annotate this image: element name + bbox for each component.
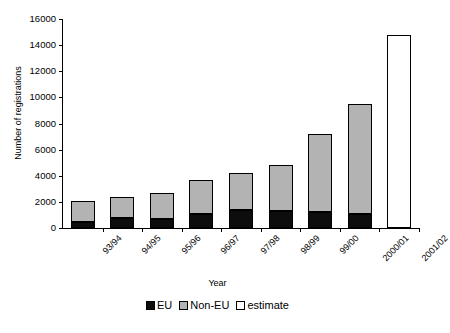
y-axis-tick-mark: [59, 202, 63, 203]
bar-segment-eu: [150, 219, 174, 228]
bar-group: [229, 19, 253, 228]
legend-item: Non-EU: [179, 300, 229, 311]
y-axis-tick-label: 12000: [10, 66, 56, 76]
y-axis-tick-label: 16000: [10, 14, 56, 24]
bar-segment-eu: [348, 214, 372, 228]
x-axis-tick-label: 94/95: [140, 233, 163, 256]
legend-label: estimate: [247, 300, 289, 311]
bar-segment-eu: [269, 211, 293, 228]
bars-layer: [63, 19, 419, 228]
y-axis-tick-label: 0: [10, 223, 56, 233]
bar-group: [269, 19, 293, 228]
bar-group: [387, 19, 411, 228]
x-axis-tick-label: 99/00: [338, 233, 361, 256]
bar-segment-non-eu: [189, 180, 213, 215]
plot-area: [62, 19, 419, 229]
bar-segment-non-eu: [110, 197, 134, 218]
x-axis-tick-label: 96/97: [219, 233, 242, 256]
x-axis-tick-mark: [142, 228, 143, 232]
y-axis-tick-mark: [59, 97, 63, 98]
white-square-swatch: [236, 301, 245, 310]
bar-segment-eu: [189, 214, 213, 228]
legend-label: EU: [157, 300, 172, 311]
chart-legend: EUNon-EUestimate: [0, 300, 435, 311]
bar-group: [110, 19, 134, 228]
x-axis-tick-mark: [419, 228, 420, 232]
y-axis-tick-label: 14000: [10, 40, 56, 50]
bar-segment-eu: [110, 218, 134, 228]
y-axis-tick-label: 10000: [10, 92, 56, 102]
x-axis-tick-mark: [340, 228, 341, 232]
bar-segment-non-eu: [348, 104, 372, 214]
y-axis-tick-label: 8000: [10, 119, 56, 129]
x-axis-tick-label: 2001/02: [420, 233, 450, 263]
bar-group: [150, 19, 174, 228]
bar-segment-non-eu: [308, 134, 332, 212]
x-axis-tick-mark: [300, 228, 301, 232]
y-axis-tick-mark: [59, 176, 63, 177]
x-axis-tick-mark: [379, 228, 380, 232]
bar-group: [189, 19, 213, 228]
x-axis-tick-mark: [182, 228, 183, 232]
bar-segment-non-eu: [269, 165, 293, 211]
bar-segment-eu: [71, 222, 95, 228]
y-axis-tick-mark: [59, 228, 63, 229]
legend-item: estimate: [236, 300, 289, 311]
bar-group: [71, 19, 95, 228]
bar-segment-estimate: [387, 35, 411, 228]
x-axis-tick-label: 2000/01: [380, 233, 410, 263]
gray-square-swatch: [179, 301, 188, 310]
bar-segment-non-eu: [150, 193, 174, 219]
x-axis-tick-mark: [221, 228, 222, 232]
bar-segment-eu: [229, 210, 253, 228]
x-axis-tick-label: 95/96: [179, 233, 202, 256]
black-square-swatch: [146, 301, 155, 310]
y-axis-tick-mark: [59, 19, 63, 20]
x-axis-tick-label: 97/98: [259, 233, 282, 256]
legend-label: Non-EU: [190, 300, 229, 311]
x-axis-title: Year: [0, 278, 435, 288]
bar-group: [308, 19, 332, 228]
bar-segment-non-eu: [71, 201, 95, 223]
x-axis-tick-mark: [103, 228, 104, 232]
bar-segment-non-eu: [229, 173, 253, 210]
y-axis-tick-mark: [59, 71, 63, 72]
y-axis-tick-mark: [59, 150, 63, 151]
y-axis-tick-label: 6000: [10, 145, 56, 155]
x-axis-tick-label: 93/94: [100, 233, 123, 256]
y-axis-tick-label: 4000: [10, 171, 56, 181]
x-axis-tick-label: 98/99: [298, 233, 321, 256]
bar-group: [348, 19, 372, 228]
y-axis-tick-label: 2000: [10, 197, 56, 207]
y-axis-tick-mark: [59, 45, 63, 46]
x-axis-tick-mark: [261, 228, 262, 232]
legend-item: EU: [146, 300, 172, 311]
bar-segment-eu: [308, 212, 332, 228]
y-axis-tick-mark: [59, 124, 63, 125]
